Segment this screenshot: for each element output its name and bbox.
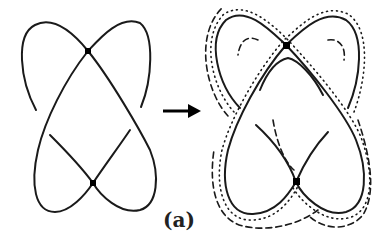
top-node-icon [85,48,91,54]
top-node-icon [283,42,290,49]
figure-label: (a) [163,208,195,232]
right-band-diagram [206,8,371,228]
arrow-icon [163,104,201,118]
bottom-node-icon [90,180,96,186]
figure-canvas [0,0,392,252]
left-nodes [85,48,96,186]
bottom-node-icon [293,178,300,185]
